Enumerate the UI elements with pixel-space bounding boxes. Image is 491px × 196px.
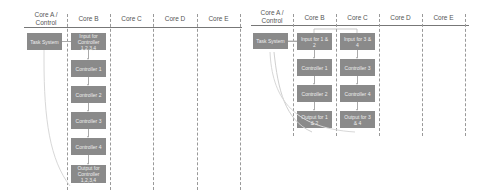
right-diagram: Core A / Control Core B Core C Core D Co… [0, 0, 491, 196]
return-arrow-curves [0, 0, 491, 196]
